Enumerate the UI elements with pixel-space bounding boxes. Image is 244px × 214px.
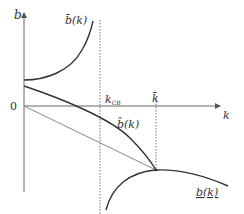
b-hat-label: b̂(k) — [117, 117, 139, 131]
k-bar-label: k̄ — [152, 92, 159, 105]
tangency-point — [155, 169, 158, 172]
b-bar-label: b̄(k) — [65, 14, 87, 27]
b-underline-label: b(k) — [196, 186, 218, 199]
x-axis-label: k — [223, 109, 230, 122]
tangent-line — [24, 106, 156, 170]
diagram-canvas: b k 0 kCB k̄ b̄(k) b̂(k) b(k) — [0, 0, 244, 214]
k-cb-subscript: CB — [112, 99, 122, 106]
y-axis-label: b — [14, 8, 22, 22]
k-cb-label: kCB — [105, 93, 121, 106]
origin-label: 0 — [10, 100, 17, 113]
b-bar-curve — [24, 21, 93, 80]
